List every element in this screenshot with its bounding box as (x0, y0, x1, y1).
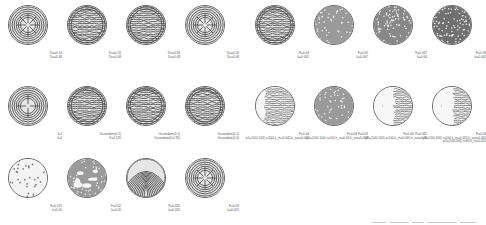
pattern-disc-labyrinth (126, 5, 166, 45)
pattern-caption: F=0.06 F=0.09p1=(100,100) r=100 k_in=0.0… (307, 133, 369, 140)
pattern-disc-spots-dark (432, 5, 472, 45)
pattern-caption: F=0.08k=0.062 (475, 52, 486, 59)
pattern-caption: F=0.04p1=(100,100) r=100 k_in=0.045 k_ou… (246, 133, 309, 140)
pattern-disc-front-labyrinth (255, 86, 295, 126)
pattern-disc-stripes-curved (126, 158, 166, 198)
caption-line: k=0.05 (111, 209, 121, 213)
pattern-disc-spots-dense (373, 5, 413, 45)
pattern-caption: U=random(0,1)V=0.135 (99, 133, 121, 140)
pattern-caption: U=random(0,1)V=random(0,0.35) (154, 133, 180, 140)
pattern-caption: F=0.04p1=(100,100) r=100 k_in=0.055 k_ou… (423, 133, 486, 144)
caption-line: V=random(0,0.35) (154, 137, 180, 141)
caption-line: k=0.061 (298, 56, 309, 60)
pattern-caption: F=0.015k=0.05 (50, 205, 62, 212)
pattern-caption: U=random(0,1)V=random(0,0) (217, 133, 239, 140)
caption-line: p1=(100,100) r=100 k_in=0.06 k_out=0.068 (307, 137, 369, 141)
caption-line: Dv=0.08 (109, 56, 121, 60)
caption-line: V=0.135 (99, 137, 121, 141)
caption-line: p1=(100,100) r=100 k_in=0.045 k_out=0.06… (246, 137, 309, 141)
pattern-disc-cross-labyrinth (8, 86, 48, 126)
pattern-caption: F=0.04k=0.061 (298, 52, 309, 59)
caption-line: k=0.055 (228, 209, 239, 213)
footer-marks (372, 222, 482, 224)
caption-line: k=0.055 (168, 209, 180, 213)
pattern-caption: F=0.04, F=0.061p1=(100,100) r=100 k_in=0… (366, 133, 428, 140)
pattern-disc-labyrinth (67, 5, 107, 45)
pattern-disc-concentric-labyrinth (185, 5, 225, 45)
pattern-disc-labyrinth (255, 5, 295, 45)
pattern-caption: F=0.025k=0.055 (168, 205, 180, 212)
pattern-caption: Du=0.20Dv=0.08 (227, 52, 239, 59)
caption-line: V=random(0,0) (217, 137, 239, 141)
pattern-disc-radial-labyrinth (8, 5, 48, 45)
caption-line: Dv=0.08 (168, 56, 180, 60)
pattern-disc-spots (314, 5, 354, 45)
pattern-caption: F=0.067k=0.06 (415, 52, 427, 59)
pattern-caption: l=1f=0 (57, 133, 62, 140)
caption-line: Dv=0.36 (50, 56, 62, 60)
caption-line: k=0.062 (475, 56, 486, 60)
caption-line: p1=(100,100) r=100 k_in=0.065 k_out=0.06 (366, 137, 428, 141)
caption-line: Dv=0.08 (227, 56, 239, 60)
pattern-disc-stripes-radial (185, 158, 225, 198)
caption-line: k=0.067 (357, 56, 368, 60)
pattern-caption: F=0.02k=0.05 (111, 205, 121, 212)
pattern-disc-front-spots (314, 86, 354, 126)
pattern-disc-front-multi (432, 86, 472, 126)
caption-line: f=0 (57, 137, 62, 141)
pattern-disc-dense-labyrinth (185, 86, 225, 126)
pattern-caption: F=0.03k=0.055 (228, 205, 239, 212)
pattern-caption: Du=0.18Dv=0.08 (168, 52, 180, 59)
pattern-disc-labyrinth (126, 86, 166, 126)
pattern-disc-spots-sparse (8, 158, 48, 198)
pattern-caption: F=0.05k=0.067 (357, 52, 368, 59)
pattern-caption: Du=0.16Dv=0.08 (109, 52, 121, 59)
caption-line: k=0.05 (50, 209, 62, 213)
caption-line: k=0.06 (415, 56, 427, 60)
pattern-caption: Du=0.14Dv=0.36 (50, 52, 62, 59)
pattern-disc-front-mixed (373, 86, 413, 126)
pattern-disc-spots-holes (67, 158, 107, 198)
pattern-disc-labyrinth (67, 86, 107, 126)
caption-line: p2=(200,200) r=60 k_in=0.055 (423, 140, 486, 144)
